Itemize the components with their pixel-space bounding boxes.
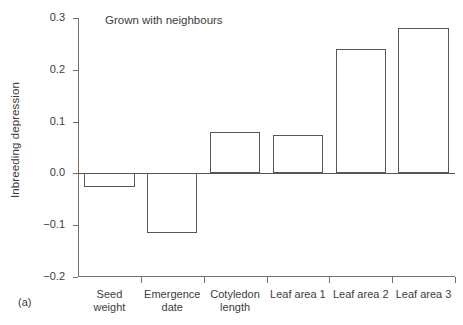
y-axis-title: Inbreeding depression [0, 0, 30, 280]
x-axis-tick [267, 277, 268, 283]
x-axis-tick [329, 277, 330, 283]
x-axis-category-label: Leaf area 3 [392, 288, 455, 301]
bar [84, 173, 134, 187]
y-axis-tick-label: 0.1 [31, 115, 65, 127]
x-axis-category-label-line: length [204, 301, 267, 314]
x-axis-category-label: Cotyledonlength [204, 288, 267, 314]
x-axis-category-label: Emergencedate [141, 288, 204, 314]
panel-label: (a) [18, 296, 31, 308]
x-axis-category-label-line: weight [78, 301, 141, 314]
y-axis-tick: 0.1 [73, 122, 78, 123]
x-axis-category-label: Leaf area 1 [267, 288, 330, 301]
y-axis-tick: −0.1 [73, 225, 78, 226]
x-axis-category-label: Leaf area 2 [329, 288, 392, 301]
x-axis-tick [455, 277, 456, 283]
x-axis-tick [204, 277, 205, 283]
bar [273, 135, 323, 174]
y-axis-tick: 0.0 [73, 173, 78, 174]
y-axis-tick: −0.2 [73, 277, 78, 278]
figure-panel: Inbreeding depression (a) Grown with nei… [0, 0, 463, 325]
bar [210, 132, 260, 173]
y-axis-tick: 0.3 [73, 18, 78, 19]
zero-baseline [78, 173, 455, 174]
x-axis-category-label: Seedweight [78, 288, 141, 314]
y-axis-tick-label: 0.3 [31, 11, 65, 23]
plot-area: Grown with neighbours 0.30.20.10.0−0.1−0… [78, 18, 455, 277]
y-axis-tick: 0.2 [73, 70, 78, 71]
x-axis-category-label-line: Seed [78, 288, 141, 301]
bar [398, 28, 448, 173]
y-axis-line [78, 18, 79, 277]
x-axis-category-label-line: Cotyledon [204, 288, 267, 301]
y-axis-tick-label: −0.2 [31, 270, 65, 282]
y-axis-title-text: Inbreeding depression [9, 82, 21, 198]
y-axis-tick-label: −0.1 [31, 218, 65, 230]
x-axis-category-label-line: Emergence [141, 288, 204, 301]
x-axis-tick [392, 277, 393, 283]
y-axis-tick-label: 0.2 [31, 63, 65, 75]
y-axis-tick-label: 0.0 [31, 166, 65, 178]
x-axis-category-label-line: Leaf area 2 [329, 288, 392, 301]
x-axis-category-label-line: Leaf area 3 [392, 288, 455, 301]
x-axis-tick [141, 277, 142, 283]
x-axis-category-label-line: Leaf area 1 [267, 288, 330, 301]
chart-title: Grown with neighbours [105, 14, 223, 26]
bar [147, 173, 197, 233]
x-axis-category-label-line: date [141, 301, 204, 314]
bar [336, 49, 386, 173]
